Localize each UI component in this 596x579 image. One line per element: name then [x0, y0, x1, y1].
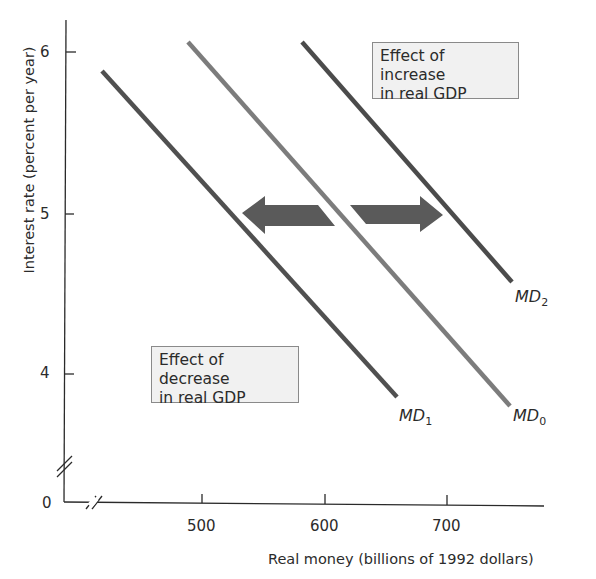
decrease-annotation-line2: in real GDP — [159, 389, 291, 408]
md2-label: MD2 — [515, 287, 548, 309]
arrow-left-icon — [242, 196, 335, 234]
y-tick-5: 5 — [40, 205, 50, 223]
md1-label: MD1 — [399, 406, 432, 428]
increase-annotation: Effect of increase in real GDP — [372, 42, 519, 99]
y-tick-6: 6 — [40, 43, 50, 61]
x-axis-title: Real money (billions of 1992 dollars) — [268, 551, 534, 567]
x-tick-600: 600 — [310, 517, 339, 535]
arrow-right-icon — [350, 196, 443, 232]
decrease-annotation: Effect of decrease in real GDP — [151, 346, 299, 403]
md2-label-sub: 2 — [541, 296, 548, 309]
x-axis — [64, 494, 544, 509]
x-tick-700: 700 — [432, 517, 461, 535]
y-axis-title: Interest rate (percent per year) — [21, 46, 37, 273]
md2-label-main: MD — [515, 287, 541, 306]
y-axis — [57, 20, 76, 502]
origin-label: 0 — [42, 494, 52, 512]
increase-annotation-line1: Effect of increase — [380, 47, 511, 85]
increase-annotation-line2: in real GDP — [380, 85, 511, 104]
y-tick-4: 4 — [40, 364, 50, 382]
md1-label-sub: 1 — [425, 415, 432, 428]
md0-label: MD0 — [513, 406, 546, 428]
md1-label-main: MD — [399, 406, 425, 425]
decrease-annotation-line1: Effect of decrease — [159, 351, 291, 389]
md0-label-sub: 0 — [539, 415, 546, 428]
md0-label-main: MD — [513, 406, 539, 425]
x-tick-500: 500 — [187, 517, 216, 535]
